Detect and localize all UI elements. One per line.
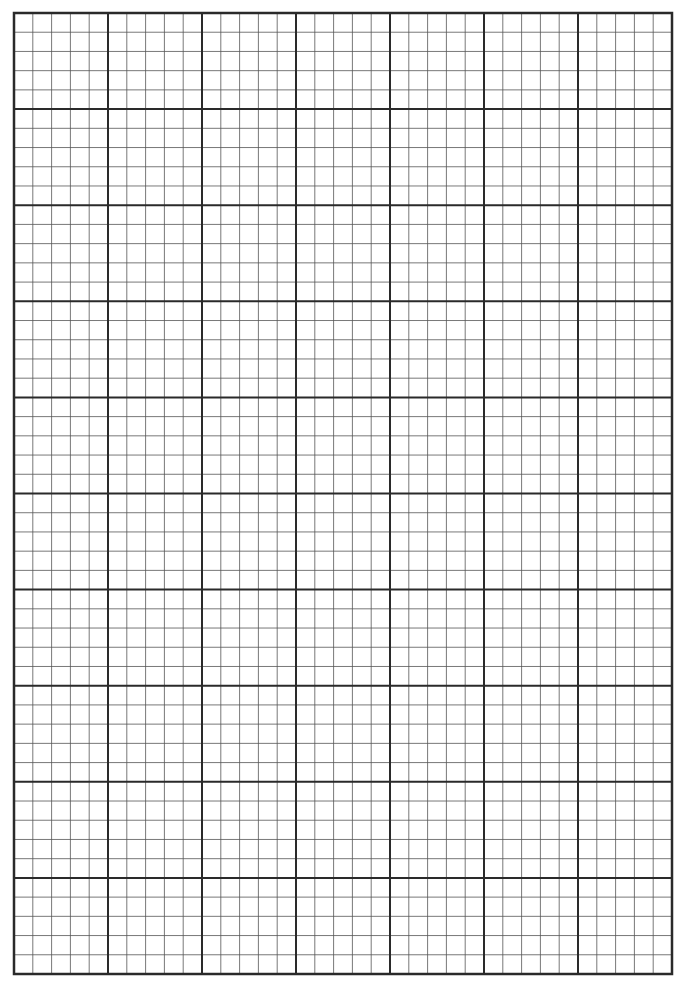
major-lines xyxy=(14,13,672,974)
graph-paper-grid xyxy=(0,0,683,985)
